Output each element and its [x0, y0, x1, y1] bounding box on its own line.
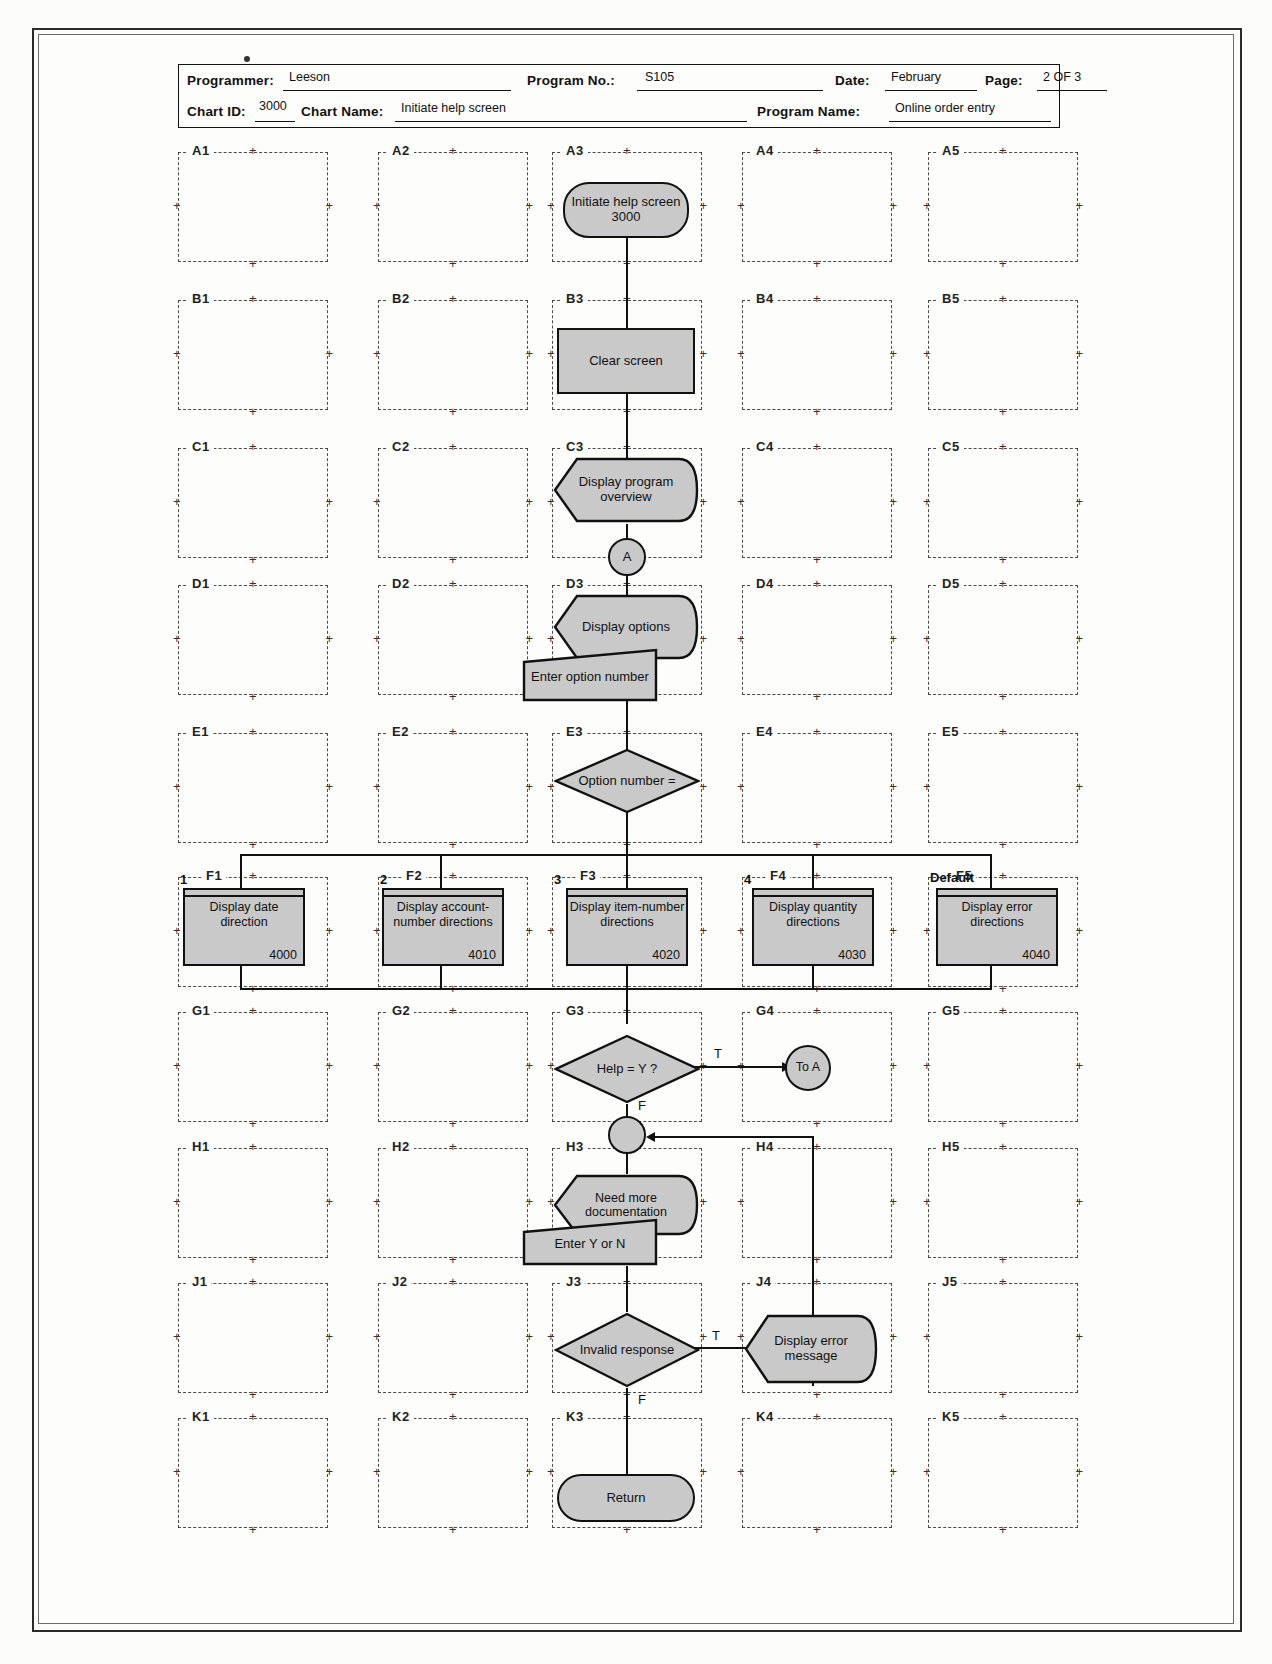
- node-module-number: 4040: [1022, 948, 1050, 962]
- cell-id-label: B1: [188, 291, 214, 306]
- cell-id-label: D1: [188, 576, 214, 591]
- node-label: Clear screen: [589, 354, 663, 369]
- node-enter-option-number[interactable]: Enter option number: [522, 648, 658, 702]
- cell-id-label: H3: [562, 1139, 588, 1154]
- node-merge-junction[interactable]: [608, 1116, 646, 1154]
- cell-id-label: J5: [938, 1274, 961, 1289]
- grid-cell-A1: A1++++: [178, 152, 328, 262]
- cell-id-label: K5: [938, 1409, 964, 1424]
- program-name-value[interactable]: Online order entry: [895, 101, 995, 115]
- grid-cell-C2: C2++++: [378, 448, 528, 558]
- edge-merge-g3: [626, 988, 628, 1024]
- node-module-number: 4010: [468, 948, 496, 962]
- node-display-error-directions[interactable]: Display error directions 4040: [936, 888, 1058, 966]
- grid-cell-J5: J5++++: [928, 1283, 1078, 1393]
- node-display-program-overview[interactable]: Display program overview: [553, 455, 699, 525]
- node-option-number-decision[interactable]: Option number =: [554, 748, 700, 814]
- cell-id-label: F1: [202, 868, 226, 883]
- arrow-back-to-merge-icon: [646, 1132, 655, 1142]
- program-no-value[interactable]: S105: [645, 70, 674, 84]
- edge-case-bus: [240, 854, 992, 856]
- cell-id-label: B4: [752, 291, 778, 306]
- header-row-2: Chart ID: 3000 Chart Name: Initiate help…: [179, 96, 1059, 127]
- node-label: Initiate help screen 3000: [565, 195, 687, 225]
- cell-id-label: B3: [562, 291, 588, 306]
- grid-cell-E5: E5++++: [928, 733, 1078, 843]
- grid-cell-A5: A5++++: [928, 152, 1078, 262]
- edge-bus-f4: [812, 854, 814, 888]
- programmer-label: Programmer:: [187, 73, 274, 88]
- cell-id-label: A4: [752, 143, 778, 158]
- cell-id-label: F3: [576, 868, 600, 883]
- edge-bus-f1: [240, 854, 242, 888]
- node-display-item-number-directions[interactable]: Display item-number directions 4020: [566, 888, 688, 966]
- cell-id-label: G1: [188, 1003, 214, 1018]
- node-label: Display error directions: [938, 900, 1056, 930]
- node-enter-y-or-n[interactable]: Enter Y or N: [522, 1218, 658, 1266]
- program-no-label: Program No.:: [527, 73, 615, 88]
- node-initiate-help-screen[interactable]: Initiate help screen 3000: [563, 182, 689, 238]
- grid-cell-E2: E2++++: [378, 733, 528, 843]
- branch-label-case1: 1: [180, 872, 187, 887]
- grid-cell-C5: C5++++: [928, 448, 1078, 558]
- grid-cell-J2: J2++++: [378, 1283, 528, 1393]
- node-display-account-number-directions[interactable]: Display account-number directions 4010: [382, 888, 504, 966]
- node-display-date-direction[interactable]: Display date direction 4000: [183, 888, 305, 966]
- cell-id-label: A3: [562, 143, 588, 158]
- grid-cell-G1: G1++++: [178, 1012, 328, 1122]
- node-connector-a[interactable]: A: [608, 538, 646, 576]
- edge-label-g3-false: F: [638, 1098, 646, 1113]
- grid-cell-C1: C1++++: [178, 448, 328, 558]
- page-value[interactable]: 2 OF 3: [1043, 70, 1081, 84]
- edge-f1-merge: [240, 966, 242, 990]
- node-clear-screen[interactable]: Clear screen: [557, 328, 695, 394]
- cell-id-label: D5: [938, 576, 964, 591]
- edge-j3-k3: [626, 1388, 628, 1474]
- cell-id-label: K4: [752, 1409, 778, 1424]
- grid-cell-H1: H1++++: [178, 1148, 328, 1258]
- grid-cell-D5: D5++++: [928, 585, 1078, 695]
- page-label: Page:: [985, 73, 1023, 88]
- cell-id-label: G4: [752, 1003, 778, 1018]
- cell-id-label: F2: [402, 868, 426, 883]
- cell-id-label: A2: [388, 143, 414, 158]
- node-invalid-response-decision[interactable]: Invalid response: [554, 1312, 700, 1388]
- node-label: Option number =: [567, 774, 687, 789]
- cell-id-label: J1: [188, 1274, 211, 1289]
- edge-f2-merge: [440, 966, 442, 990]
- node-label: Invalid response: [567, 1343, 687, 1358]
- grid-cell-H2: H2++++: [378, 1148, 528, 1258]
- grid-cell-K4: K4++++: [742, 1418, 892, 1528]
- grid-cell-A4: A4++++: [742, 152, 892, 262]
- predefined-process-bar-icon: [185, 895, 303, 897]
- node-display-error-message[interactable]: Display error message: [744, 1312, 878, 1386]
- edge-label-j3-false: F: [638, 1392, 646, 1407]
- grid-cell-B1: B1++++: [178, 300, 328, 410]
- cell-id-label: D3: [562, 576, 588, 591]
- cell-id-label: C4: [752, 439, 778, 454]
- chart-id-value[interactable]: 3000: [259, 99, 287, 113]
- grid-cell-H4: H4++++: [742, 1148, 892, 1258]
- edge-f4-merge: [812, 966, 814, 990]
- node-return[interactable]: Return: [557, 1474, 695, 1522]
- programmer-value[interactable]: Leeson: [289, 70, 330, 84]
- node-help-decision[interactable]: Help = Y ?: [554, 1034, 700, 1104]
- date-value[interactable]: February: [891, 70, 941, 84]
- edge-f3-merge: [626, 966, 628, 990]
- node-display-quantity-directions[interactable]: Display quantity directions 4030: [752, 888, 874, 966]
- edge-j4-riser: [812, 1136, 814, 1264]
- grid-cell-B2: B2++++: [378, 300, 528, 410]
- grid-cell-B5: B5++++: [928, 300, 1078, 410]
- chart-name-value[interactable]: Initiate help screen: [401, 101, 506, 115]
- cell-id-label: E4: [752, 724, 777, 739]
- cell-id-label: D2: [388, 576, 414, 591]
- node-label: Display program overview: [563, 475, 689, 505]
- branch-label-case3: 3: [554, 872, 561, 887]
- node-connector-to-a[interactable]: To A: [785, 1045, 831, 1091]
- edge-label-j3-true: T: [712, 1328, 720, 1343]
- edge-manual-e3: [626, 700, 628, 750]
- edge-h3m-j3: [626, 1266, 628, 1312]
- predefined-process-bar-icon: [938, 895, 1056, 897]
- cell-id-label: C5: [938, 439, 964, 454]
- cell-id-label: C1: [188, 439, 214, 454]
